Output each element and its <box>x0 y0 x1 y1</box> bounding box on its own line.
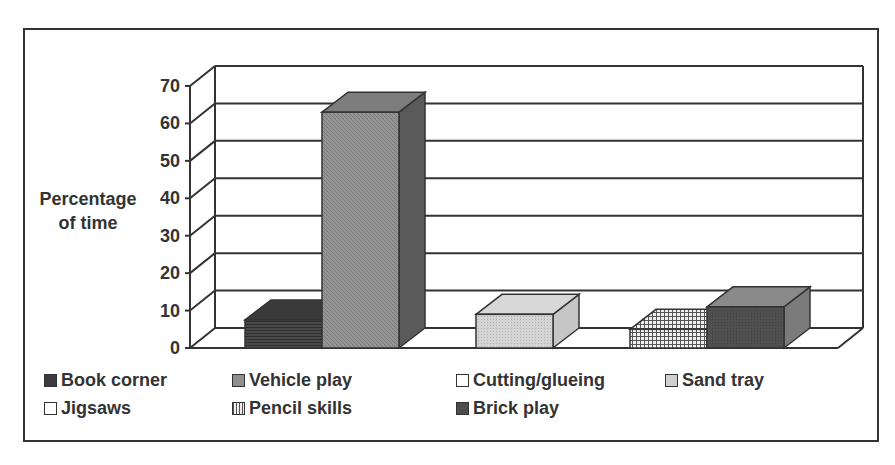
legend-swatch <box>665 374 678 387</box>
legend-swatch <box>232 402 245 415</box>
chart-bars <box>245 92 810 348</box>
legend-label: Pencil skills <box>249 398 352 419</box>
y-tick-label: 70 <box>140 76 180 96</box>
legend-label: Vehicle play <box>249 370 352 391</box>
legend-swatch <box>44 374 57 387</box>
legend-swatch <box>456 374 469 387</box>
y-tick-label: 40 <box>140 188 180 208</box>
legend-item-sand-tray: Sand tray <box>665 370 764 391</box>
y-tick-label: 10 <box>140 301 180 321</box>
legend-label: Sand tray <box>682 370 764 391</box>
legend-item-pencil-skills: Pencil skills <box>232 398 352 419</box>
legend-swatch <box>456 402 469 415</box>
y-tick-label: 30 <box>140 226 180 246</box>
y-tick-label: 50 <box>140 151 180 171</box>
bar-vehicle-play <box>322 92 425 348</box>
y-tick-label: 20 <box>140 263 180 283</box>
y-axis-label-line1: Percentage <box>28 187 148 211</box>
legend-swatch <box>44 402 57 415</box>
legend-item-cutting-glueing: Cutting/glueing <box>456 370 605 391</box>
bar-brick-play <box>707 287 810 348</box>
legend-item-book-corner: Book corner <box>44 370 167 391</box>
legend-item-brick-play: Brick play <box>456 398 559 419</box>
legend-label: Cutting/glueing <box>473 370 605 391</box>
legend-item-jigsaws: Jigsaws <box>44 398 131 419</box>
legend-label: Brick play <box>473 398 559 419</box>
legend-label: Book corner <box>61 370 167 391</box>
y-axis-label-line2: of time <box>28 211 148 235</box>
bar-sand-tray <box>476 294 579 348</box>
y-axis-label: Percentage of time <box>28 187 148 235</box>
legend-swatch <box>232 374 245 387</box>
legend-label: Jigsaws <box>61 398 131 419</box>
legend-item-vehicle-play: Vehicle play <box>232 370 352 391</box>
y-tick-label: 60 <box>140 113 180 133</box>
y-tick-label: 0 <box>140 338 180 358</box>
